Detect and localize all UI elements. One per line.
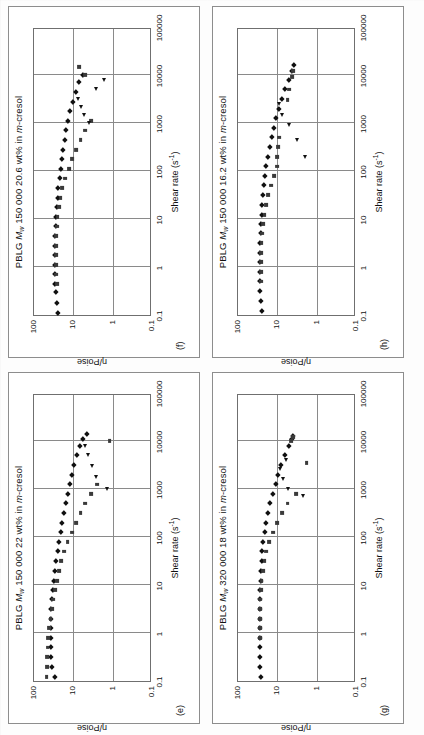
plot-area bbox=[237, 28, 355, 316]
data-point-square bbox=[54, 244, 58, 248]
data-point-square bbox=[287, 88, 291, 92]
x-axis-label-text: Shear rate (s bbox=[170, 526, 180, 578]
data-point-square bbox=[267, 540, 271, 544]
data-point-triangle bbox=[281, 477, 285, 481]
title-middle: 150 000 16.2 wt% in bbox=[217, 133, 228, 226]
data-point-diamond bbox=[262, 529, 268, 535]
data-point-square bbox=[54, 263, 58, 267]
gridline-vertical bbox=[34, 440, 150, 441]
figure-panel-h: PBLG Mw 150 000 16.2 wt% in m-cresol0.11… bbox=[212, 6, 404, 358]
data-point-square bbox=[260, 232, 264, 236]
data-point-triangle bbox=[90, 464, 94, 468]
data-point-diamond bbox=[269, 134, 275, 140]
data-point-square bbox=[62, 550, 66, 554]
x-tick-label: 10000 bbox=[359, 431, 368, 453]
data-point-square bbox=[46, 646, 50, 650]
title-tail: -cresol bbox=[13, 466, 24, 495]
data-point-triangle bbox=[277, 102, 281, 106]
data-point-square bbox=[272, 174, 276, 178]
data-point-triangle bbox=[86, 453, 90, 457]
x-tick-label: 100 bbox=[359, 531, 368, 544]
x-tick-label: 100000 bbox=[155, 15, 164, 42]
data-point-diamond bbox=[270, 491, 276, 497]
data-point-triangle bbox=[102, 78, 106, 82]
data-point-square bbox=[79, 511, 83, 515]
data-point-square bbox=[52, 598, 56, 602]
data-point-square bbox=[83, 502, 87, 506]
data-point-triangle bbox=[278, 467, 282, 471]
data-point-diamond bbox=[71, 462, 77, 468]
y-tick-label: 1 bbox=[311, 320, 320, 342]
data-point-square bbox=[259, 260, 263, 264]
gridline-vertical bbox=[238, 266, 354, 267]
y-tick-label: 100 bbox=[29, 686, 38, 708]
x-tick-label: 10000 bbox=[155, 431, 164, 453]
title-mw-symbol: M bbox=[13, 232, 24, 240]
gridline-vertical bbox=[34, 584, 150, 585]
data-point-square bbox=[45, 655, 49, 659]
chart-title: PBLG Mw 150 000 20.6 wt% in m-cresol bbox=[13, 8, 25, 356]
data-point-diamond bbox=[65, 491, 71, 497]
y-tick-label: 1 bbox=[311, 686, 320, 708]
gridline-vertical bbox=[34, 632, 150, 633]
data-point-diamond bbox=[55, 310, 61, 316]
gridline-vertical bbox=[238, 170, 354, 171]
panel-letter: (g) bbox=[379, 705, 389, 716]
title-solvent-italic: m bbox=[13, 125, 24, 133]
rotated-chart-wrapper: PBLG Mw 150 000 20.6 wt% in m-cresol0.11… bbox=[11, 8, 197, 356]
x-tick-label: 100000 bbox=[359, 15, 368, 42]
data-point-triangle bbox=[280, 113, 284, 117]
data-point-diamond bbox=[276, 106, 282, 112]
data-point-square bbox=[55, 225, 59, 229]
y-tick-label: 0.1 bbox=[147, 320, 156, 342]
data-point-square bbox=[45, 675, 49, 679]
data-point-square bbox=[63, 177, 67, 181]
data-point-diamond bbox=[65, 118, 71, 124]
data-point-diamond bbox=[80, 436, 86, 442]
title-mw-symbol: M bbox=[217, 594, 228, 602]
title-solvent-italic: m bbox=[13, 495, 24, 503]
gridline-horizontal bbox=[113, 29, 114, 315]
gridline-vertical bbox=[34, 74, 150, 75]
x-tick-label: 10000 bbox=[359, 65, 368, 87]
data-point-diamond bbox=[267, 500, 273, 506]
x-axis-label-exponent: -1 bbox=[372, 521, 379, 527]
data-point-square bbox=[53, 588, 57, 592]
data-point-triangle bbox=[87, 121, 91, 125]
y-tick-label: 1 bbox=[107, 686, 116, 708]
data-point-diamond bbox=[59, 520, 65, 526]
data-point-square bbox=[74, 148, 78, 152]
data-point-square bbox=[47, 626, 51, 630]
data-point-diamond bbox=[60, 147, 66, 153]
data-point-diamond bbox=[260, 192, 266, 198]
figure-page: PBLG Mw 150 000 20.6 wt% in m-cresol0.11… bbox=[0, 0, 424, 735]
data-point-square bbox=[258, 636, 262, 640]
gridline-vertical bbox=[34, 536, 150, 537]
data-point-square bbox=[275, 164, 279, 168]
x-tick-label: 1 bbox=[155, 632, 164, 636]
data-point-diamond bbox=[265, 510, 271, 516]
data-point-square bbox=[259, 251, 263, 255]
gridline-horizontal bbox=[113, 395, 114, 681]
x-tick-label: 1000 bbox=[155, 481, 164, 499]
data-point-diamond bbox=[260, 539, 266, 545]
gridline-horizontal bbox=[277, 29, 278, 315]
y-tick-label: 10 bbox=[272, 320, 281, 342]
gridline-vertical bbox=[238, 488, 354, 489]
data-point-square bbox=[56, 215, 60, 219]
x-tick-label: 10 bbox=[359, 216, 368, 225]
data-point-square bbox=[286, 98, 290, 102]
data-point-square bbox=[59, 196, 63, 200]
data-point-square bbox=[55, 282, 59, 286]
chart-title: PBLG Mw 150 000 16.2 wt% in m-cresol bbox=[217, 8, 229, 356]
rotated-chart-wrapper: PBLG Mw 320 000 18 wt% in m-cresol0.1110… bbox=[215, 374, 401, 722]
y-axis-label: η/Poise bbox=[281, 357, 311, 367]
data-point-triangle bbox=[286, 487, 290, 491]
x-tick-label: 10000 bbox=[155, 65, 164, 87]
gridline-vertical bbox=[34, 218, 150, 219]
data-point-square bbox=[47, 636, 51, 640]
data-point-square bbox=[258, 598, 262, 602]
data-point-diamond bbox=[261, 182, 267, 188]
title-mw-subscript: w bbox=[222, 588, 229, 593]
y-tick-label: 100 bbox=[29, 320, 38, 342]
